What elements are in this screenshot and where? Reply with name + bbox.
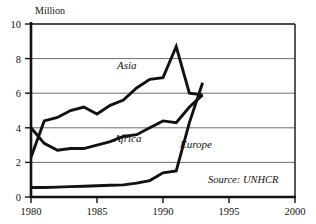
y-tick-label-6: 6 bbox=[16, 88, 21, 99]
x-tick-label-2000: 2000 bbox=[285, 206, 306, 217]
source-label: Source: UNHCR bbox=[208, 174, 279, 185]
chart-container: Million 10 8 6 4 2 0 1980 1985 1990 1995… bbox=[0, 0, 316, 224]
x-tick-label-1980: 1980 bbox=[21, 206, 42, 217]
x-tick-label-1985: 1985 bbox=[87, 206, 108, 217]
y-axis-title: Million bbox=[35, 5, 65, 16]
series-label-asia: Asia bbox=[116, 59, 137, 71]
y-tick-label-4: 4 bbox=[16, 123, 22, 134]
y-tick-label-10: 10 bbox=[11, 19, 22, 30]
refugee-population-line-chart: Million 10 8 6 4 2 0 1980 1985 1990 1995… bbox=[0, 0, 316, 224]
y-tick-label-0: 0 bbox=[16, 192, 21, 203]
x-tick-label-1990: 1990 bbox=[153, 206, 174, 217]
y-tick-label-2: 2 bbox=[16, 157, 21, 168]
series-label-europe: Europe bbox=[179, 138, 212, 150]
y-tick-label-8: 8 bbox=[16, 54, 21, 65]
series-label-africa: Africa bbox=[113, 132, 142, 144]
x-tick-label-1995: 1995 bbox=[219, 206, 240, 217]
